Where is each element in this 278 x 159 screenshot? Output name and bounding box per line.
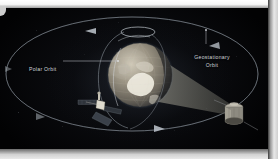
orbit-arrow-top (85, 28, 96, 34)
diagram-vector-layer (0, 8, 268, 149)
polar-orbit-label: Polar Orbit (29, 66, 57, 74)
orbit-arrow-left-upper (5, 66, 12, 72)
geostationary-orbit-label-line2: Orbit (206, 62, 219, 68)
scan-edge-bottom (0, 149, 278, 159)
orbit-arrow-right (209, 42, 220, 49)
orbit-arrow-bottom (154, 125, 165, 132)
scan-edge-top (0, 0, 278, 8)
geostationary-orbit-leader (205, 29, 207, 44)
scan-edge-right (268, 0, 278, 159)
orbit-arrow-left (36, 113, 45, 120)
orbit-diagram-screenshot: Polar Orbit Geostationary Orbit (0, 0, 278, 159)
geostationary-orbit-label: Geostationary Orbit (184, 54, 240, 69)
geostationary-orbit-label-line1: Geostationary (194, 54, 230, 60)
figure-panel: Polar Orbit Geostationary Orbit (0, 8, 268, 149)
